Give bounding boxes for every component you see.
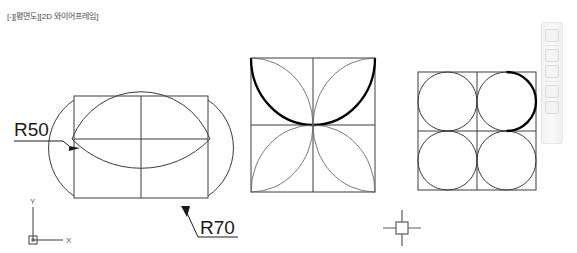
steeringwheel-icon[interactable] [545, 85, 559, 98]
r50-leader-line [63, 141, 69, 146]
ucs-origin-dot [32, 239, 35, 242]
nav-divider [545, 45, 559, 46]
figure-square-with-bulging-arcs[interactable] [49, 92, 234, 198]
figure-four-circle-cluster[interactable] [418, 72, 536, 190]
cluster-circle-top-right-inner-bottom [477, 102, 507, 132]
cluster-circle-top-right-inner-left [477, 72, 507, 102]
ucs-y-label: Y [30, 197, 36, 206]
navigation-bar[interactable] [541, 22, 563, 144]
cluster-circle-bottom-right [477, 131, 536, 190]
r70-leader-line [187, 213, 198, 237]
ucs-icon[interactable]: Y X [29, 197, 72, 245]
zoom-icon[interactable] [545, 65, 559, 78]
r70-leader-arrowhead [181, 206, 190, 217]
drawing-canvas[interactable]: R50 R70 [0, 0, 577, 253]
flower-petal-top-left-outer-arc [251, 58, 313, 125]
pan-icon[interactable] [545, 29, 559, 42]
left-figure-right-arc [208, 100, 233, 196]
crosshair-pickbox [396, 222, 408, 234]
cluster-circle-top-left [418, 72, 477, 131]
flower-petal-bottom-right-outer-arc [313, 125, 375, 192]
dimension-leader-r70[interactable]: R70 [181, 206, 238, 238]
cluster-circle-bottom-left [418, 131, 477, 190]
orbit-icon[interactable] [545, 49, 559, 62]
dimension-label-r50: R50 [14, 119, 49, 140]
dimension-label-r70: R70 [200, 217, 235, 238]
flower-petal-top-right-outer-arc [313, 58, 375, 125]
flower-petal-bottom-left-inner-arc [251, 125, 313, 192]
nav-divider [545, 81, 559, 82]
dimension-leader-r50[interactable]: R50 [14, 119, 80, 151]
flower-petal-bottom-right-inner-arc [313, 125, 375, 192]
flower-petal-bottom-left-outer-arc [251, 125, 313, 192]
ucs-x-label: X [66, 236, 72, 245]
figure-four-petal-flower[interactable] [251, 58, 375, 192]
cluster-circle-top-right-outer-arc [507, 72, 537, 131]
crosshair-cursor[interactable] [383, 210, 421, 246]
cad-drawing-screenshot: [-][평면도][2D 와이어프레임] R50 [0, 0, 577, 253]
showmotion-icon[interactable] [545, 101, 559, 114]
